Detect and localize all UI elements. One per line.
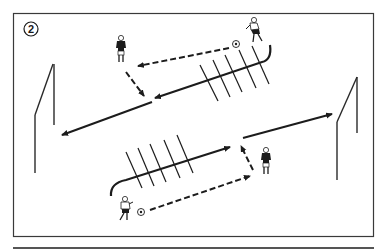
drill-diagram: 2	[0, 0, 387, 251]
svg-text:2: 2	[28, 23, 34, 35]
ball-bottom-icon	[138, 209, 145, 216]
ball-top-icon	[233, 41, 240, 48]
diagram-frame	[14, 14, 374, 237]
